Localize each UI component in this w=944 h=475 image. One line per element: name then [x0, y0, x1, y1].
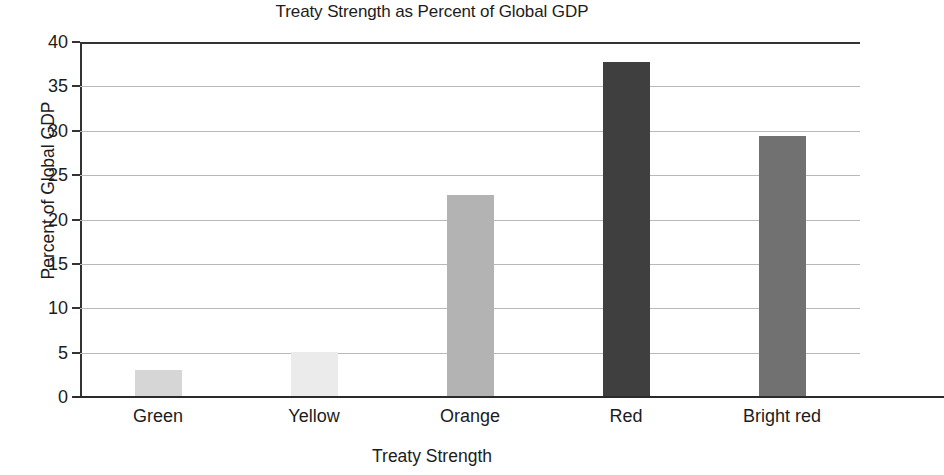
bar	[447, 195, 494, 397]
bar	[759, 136, 806, 397]
x-axis-tick-label: Green	[68, 406, 248, 427]
y-axis-tick-label: 20	[24, 211, 68, 229]
x-axis-title: Treaty Strength	[0, 446, 864, 467]
y-axis-tick-label: 0	[24, 388, 68, 406]
gridline	[80, 175, 860, 176]
y-axis-tick-label: 5	[24, 344, 68, 362]
plot-top-border	[80, 42, 860, 44]
chart-title: Treaty Strength as Percent of Global GDP	[0, 2, 864, 22]
y-axis-tick	[72, 263, 80, 265]
y-axis-tick	[72, 174, 80, 176]
y-axis-tick-label: 30	[24, 122, 68, 140]
y-axis-tick	[72, 41, 80, 43]
gridline	[80, 131, 860, 132]
bar	[603, 62, 650, 397]
y-axis-tick	[72, 352, 80, 354]
y-axis-tick-label: 40	[24, 33, 68, 51]
y-axis-tick	[72, 307, 80, 309]
y-axis-tick-label: 15	[24, 255, 68, 273]
x-axis-tick-label: Red	[536, 406, 716, 427]
gridline	[80, 86, 860, 87]
x-axis-line	[74, 396, 944, 398]
y-axis-tick	[72, 85, 80, 87]
x-axis-tick-label: Yellow	[224, 406, 404, 427]
y-axis-tick-label: 25	[24, 166, 68, 184]
y-axis-tick-label: 35	[24, 77, 68, 95]
y-axis-tick	[72, 219, 80, 221]
bar	[291, 352, 338, 397]
y-axis-tick-label: 10	[24, 299, 68, 317]
x-axis-tick-label: Orange	[380, 406, 560, 427]
x-axis-tick-label: Bright red	[692, 406, 872, 427]
plot-area	[80, 42, 860, 397]
y-axis-tick	[72, 130, 80, 132]
y-axis-tick-labels: 0510152025303540	[16, 42, 68, 397]
bar	[135, 370, 182, 397]
